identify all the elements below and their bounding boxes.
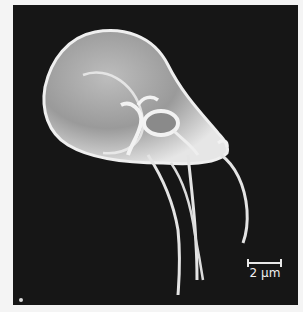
scale-bar-label: 2 µm <box>247 266 283 280</box>
flagellum-1 <box>148 155 180 295</box>
dust-speck <box>19 298 23 302</box>
micrograph: 2 µm <box>13 5 298 305</box>
flagellum-4 <box>221 155 247 243</box>
